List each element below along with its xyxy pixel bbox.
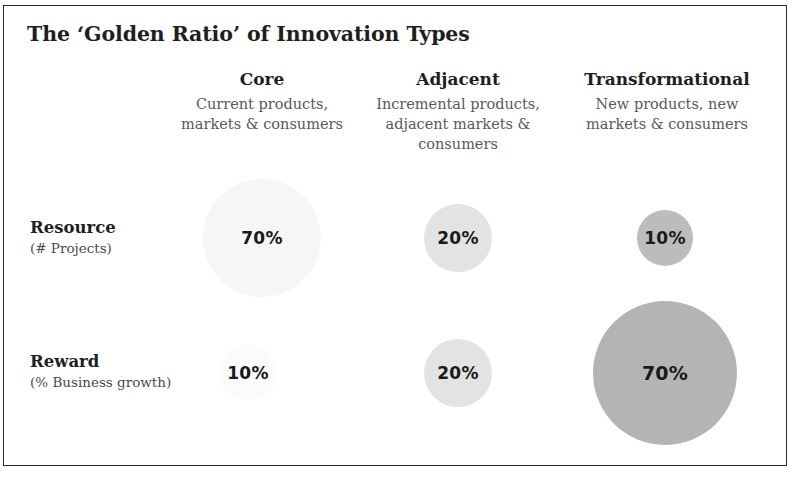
bubble-label-reward-core: 10% xyxy=(227,365,268,382)
bubble-reward-adjacent: 20% xyxy=(424,339,492,407)
column-title-adjacent: Adjacent xyxy=(353,68,563,90)
column-subtitle-adjacent-line2: adjacent markets & xyxy=(353,114,563,134)
column-subtitle-core-line1: Current products, xyxy=(157,94,367,114)
column-subtitle-transformational-line2: markets & consumers xyxy=(558,114,776,134)
bubble-label-resource-adjacent: 20% xyxy=(437,230,478,247)
column-subtitle-transformational-line1: New products, new xyxy=(558,94,776,114)
bubble-resource-adjacent: 20% xyxy=(424,204,492,272)
column-title-core: Core xyxy=(157,68,367,90)
bubble-reward-core: 10% xyxy=(220,345,276,401)
row-label-reward: Reward (% Business growth) xyxy=(30,352,210,391)
row-subtitle-resource: (# Projects) xyxy=(30,239,210,257)
bubble-label-resource-transformational: 10% xyxy=(644,230,685,247)
column-header-transformational: Transformational New products, new marke… xyxy=(558,68,776,134)
bubble-reward-transformational: 70% xyxy=(593,301,737,445)
bubble-label-reward-transformational: 70% xyxy=(642,364,688,383)
column-header-core: Core Current products, markets & consume… xyxy=(157,68,367,134)
figure-title: The ‘Golden Ratio’ of Innovation Types xyxy=(27,22,470,46)
bubble-label-resource-core: 70% xyxy=(241,230,282,247)
bubble-label-reward-adjacent: 20% xyxy=(437,365,478,382)
bubble-resource-core: 70% xyxy=(203,179,321,297)
column-title-transformational: Transformational xyxy=(558,68,776,90)
column-header-adjacent: Adjacent Incremental products, adjacent … xyxy=(353,68,563,154)
column-subtitle-adjacent: Incremental products, adjacent markets &… xyxy=(353,94,563,154)
bubble-resource-transformational: 10% xyxy=(637,210,693,266)
row-title-reward: Reward xyxy=(30,352,210,372)
innovation-ratio-figure: The ‘Golden Ratio’ of Innovation Types C… xyxy=(0,0,793,479)
column-subtitle-adjacent-line1: Incremental products, xyxy=(353,94,563,114)
column-subtitle-transformational: New products, new markets & consumers xyxy=(558,94,776,134)
column-subtitle-core: Current products, markets & consumers xyxy=(157,94,367,134)
row-subtitle-reward: (% Business growth) xyxy=(30,373,210,391)
column-subtitle-core-line2: markets & consumers xyxy=(157,114,367,134)
row-label-resource: Resource (# Projects) xyxy=(30,218,210,257)
column-subtitle-adjacent-line3: consumers xyxy=(353,134,563,154)
row-title-resource: Resource xyxy=(30,218,210,238)
